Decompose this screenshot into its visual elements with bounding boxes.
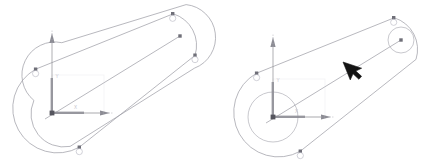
x-axis-stub bbox=[52, 112, 84, 114]
y-axis-stub bbox=[272, 82, 274, 117]
sketch-panel-after[interactable]: Y X bbox=[211, 0, 421, 168]
origin-marker bbox=[271, 115, 276, 120]
y-axis-label: Y bbox=[56, 74, 59, 79]
screenshot-canvas: Y X bbox=[0, 0, 421, 168]
node-markers-before[interactable] bbox=[33, 12, 199, 155]
sketch-canvas-before[interactable]: Y X bbox=[0, 0, 210, 168]
x-axis-label: X bbox=[74, 105, 77, 110]
node-marker bbox=[254, 72, 260, 81]
center-line-after bbox=[266, 40, 401, 123]
center-line-before bbox=[45, 36, 180, 119]
coordinate-axes-after[interactable]: Y X bbox=[270, 34, 334, 120]
node-marker bbox=[33, 68, 39, 77]
y-axis-stub bbox=[51, 78, 53, 113]
node-marker bbox=[178, 34, 181, 37]
mouse-cursor bbox=[343, 56, 365, 82]
node-marker bbox=[170, 12, 176, 21]
coordinate-axes-before[interactable]: Y X bbox=[49, 30, 113, 116]
node-marker bbox=[399, 38, 402, 41]
slot-outline-after bbox=[234, 18, 418, 157]
reference-box-before bbox=[52, 75, 104, 113]
sketch-panel-before[interactable]: Y X bbox=[0, 0, 210, 168]
sketch-canvas-after[interactable]: Y X bbox=[211, 0, 421, 168]
node-marker bbox=[192, 54, 198, 63]
slot-outline-before bbox=[22, 5, 216, 147]
x-axis-stub bbox=[273, 116, 305, 118]
x-axis-label: X bbox=[295, 109, 298, 114]
slot-outline-geometry-before bbox=[13, 14, 197, 153]
node-marker bbox=[391, 16, 397, 25]
reference-box-after bbox=[273, 79, 325, 117]
origin-marker bbox=[50, 111, 55, 116]
node-marker bbox=[76, 146, 82, 155]
y-axis-label: Y bbox=[277, 78, 280, 83]
node-marker bbox=[297, 150, 303, 159]
